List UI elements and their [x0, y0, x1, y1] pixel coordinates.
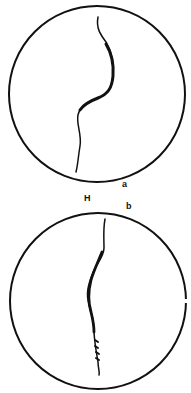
fiber-a — [76, 17, 113, 172]
figure-canvas — [0, 0, 191, 393]
panel-label-a: a — [122, 179, 127, 189]
fiber-b-thick — [89, 252, 102, 332]
fiber-a-thick — [80, 44, 113, 110]
field-circle-a — [9, 6, 185, 182]
panel-label-b: b — [126, 201, 132, 211]
marker-label-h: H — [84, 193, 91, 203]
panel-b — [10, 213, 186, 389]
panel-a — [9, 6, 185, 182]
